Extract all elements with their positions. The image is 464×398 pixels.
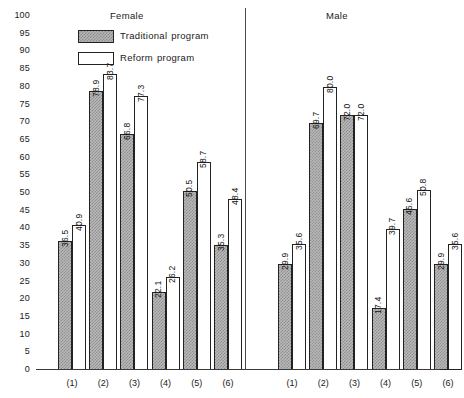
bar [183, 191, 197, 370]
bar-value-label: 69.7 [312, 112, 321, 129]
bar-value-label: 39.7 [388, 218, 397, 235]
bar-value-label: 40.9 [75, 214, 84, 231]
bar-value-label: 50.8 [419, 179, 428, 196]
bar [58, 241, 72, 370]
bar-value-label: 35.3 [217, 234, 226, 251]
x-tick-label: (2) [87, 378, 119, 388]
bar [448, 244, 462, 370]
bar-value-label: 72.0 [357, 104, 366, 121]
bar-value-label: 29.9 [437, 253, 446, 270]
bar-value-label: 80.0 [326, 75, 335, 92]
x-tick-label: (1) [56, 378, 88, 388]
bar-value-label: 26.2 [168, 266, 177, 283]
bar [120, 134, 134, 370]
bar [278, 264, 292, 370]
x-tick-label: (6) [432, 378, 464, 388]
y-tick-label: 70 [4, 117, 30, 126]
y-tick-label: 15 [4, 312, 30, 321]
y-tick-label: 20 [4, 294, 30, 303]
y-tick-label: 55 [4, 170, 30, 179]
legend-label-reform: Reform program [120, 53, 194, 63]
bar [354, 115, 368, 370]
y-tick-label: 60 [4, 153, 30, 162]
bar-value-label: 45.6 [405, 197, 414, 214]
bar-value-label: 22.1 [154, 280, 163, 297]
y-tick-label: 5 [4, 347, 30, 356]
legend-swatch-traditional-icon [78, 30, 114, 43]
y-tick-label: 25 [4, 277, 30, 286]
y-tick-label: 10 [4, 330, 30, 339]
y-tick-label: 75 [4, 100, 30, 109]
y-tick-label: 45 [4, 206, 30, 215]
y-tick-label: 85 [4, 64, 30, 73]
bar [197, 162, 211, 370]
y-tick-label: 50 [4, 188, 30, 197]
bar-value-label: 50.5 [185, 180, 194, 197]
bar [214, 245, 228, 370]
bar [134, 96, 148, 370]
panel-divider [245, 8, 246, 370]
bar [340, 115, 354, 370]
bar-value-label: 77.3 [137, 85, 146, 102]
bar [292, 244, 306, 370]
y-tick-label: 95 [4, 29, 30, 38]
bar-value-label: 17.4 [374, 297, 383, 314]
bar-value-label: 35.6 [295, 233, 304, 250]
bar [103, 74, 117, 370]
bar [228, 199, 242, 370]
bar [152, 292, 166, 370]
bar-value-label: 78.9 [92, 79, 101, 96]
x-tick-label: (4) [370, 378, 402, 388]
y-tick-label: 40 [4, 223, 30, 232]
legend-label-traditional: Traditional program [120, 31, 209, 41]
bar-value-label: 48.4 [231, 187, 240, 204]
bar-value-label: 29.9 [281, 253, 290, 270]
y-tick-label: 90 [4, 46, 30, 55]
x-axis-line [36, 369, 440, 370]
bar-value-label: 35.6 [451, 233, 460, 250]
y-tick-label: 35 [4, 241, 30, 250]
x-tick-label: (1) [276, 378, 308, 388]
bar [403, 209, 417, 370]
bar [372, 308, 386, 370]
y-tick-label: 0 [4, 365, 30, 374]
x-tick-label: (3) [338, 378, 370, 388]
x-tick-label: (5) [181, 378, 213, 388]
bar-value-label: 66.8 [123, 122, 132, 139]
bar [323, 87, 337, 370]
x-tick-label: (3) [118, 378, 150, 388]
y-tick-label: 65 [4, 135, 30, 144]
bar [89, 91, 103, 370]
x-tick-label: (2) [307, 378, 339, 388]
bar [386, 229, 400, 370]
bar-value-label: 83.7 [106, 62, 115, 79]
bar-value-label: 72.0 [343, 104, 352, 121]
bar [166, 277, 180, 370]
x-tick-label: (6) [212, 378, 244, 388]
plot-area: Female Male Traditional program Reform p… [36, 8, 440, 390]
x-tick-label: (4) [150, 378, 182, 388]
bar [417, 190, 431, 370]
bar [309, 123, 323, 370]
y-axis: 1009590858075706560555045403530252015105… [0, 0, 30, 398]
panel-title-male: Male [326, 11, 348, 21]
bar [434, 264, 448, 370]
y-tick-label: 100 [4, 11, 30, 20]
legend: Traditional program Reform program [78, 28, 209, 72]
bar-value-label: 36.5 [61, 229, 70, 246]
y-tick-label: 80 [4, 82, 30, 91]
x-tick-label: (5) [401, 378, 433, 388]
panel-title-female: Female [110, 11, 143, 21]
bar [72, 225, 86, 370]
legend-item-traditional: Traditional program [78, 28, 209, 44]
bar-value-label: 58.7 [199, 151, 208, 168]
y-tick-label: 30 [4, 259, 30, 268]
legend-item-reform: Reform program [78, 50, 209, 66]
